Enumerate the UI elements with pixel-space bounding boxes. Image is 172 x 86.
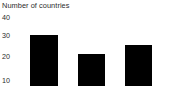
plot-area bbox=[0, 0, 172, 86]
bar-2 bbox=[78, 54, 105, 86]
bar-3 bbox=[125, 45, 152, 86]
bar-1 bbox=[30, 35, 58, 86]
bar-chart: Number of countries 40 30 20 10 bbox=[0, 0, 172, 86]
